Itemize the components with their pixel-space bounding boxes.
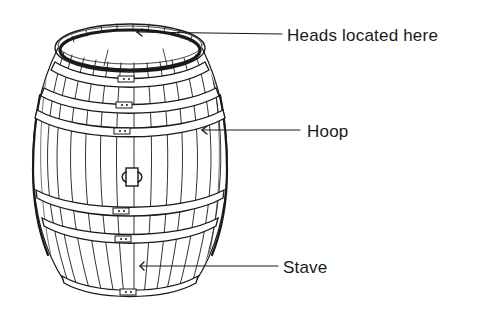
label-stave: Stave: [283, 259, 327, 276]
bunghole: [122, 168, 142, 186]
hoop-1: [51, 62, 209, 87]
label-hoop: Hoop: [307, 123, 348, 140]
label-heads-located-here: Heads located here: [287, 27, 438, 44]
barrel-outline: [33, 48, 64, 281]
barrel-illustration: [0, 0, 499, 316]
barrel-diagram: Heads located here Hoop Stave: [0, 0, 499, 316]
